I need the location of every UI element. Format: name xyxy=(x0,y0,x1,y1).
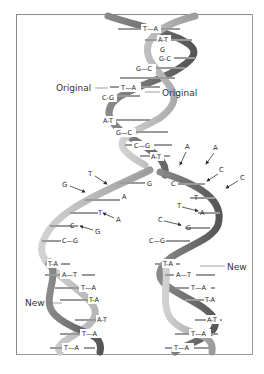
free-nuc-C3: C xyxy=(158,216,163,224)
bp-5: G—C xyxy=(136,65,153,73)
fork-right-base-2: T xyxy=(193,194,198,202)
bp-11: A-T xyxy=(151,153,161,161)
fork-left-base-2: A xyxy=(122,193,127,201)
arrow-icon xyxy=(70,186,85,192)
arrow-icon xyxy=(95,176,107,184)
left-bp-8: T—A xyxy=(63,344,79,352)
arrow-icon xyxy=(226,181,238,188)
left-bp-5: T-A xyxy=(88,296,100,304)
arrow-icon xyxy=(182,207,198,211)
fork-left-base-3: T xyxy=(97,209,102,217)
left-bp-3: A—T xyxy=(62,271,77,279)
bp-8: A-T xyxy=(103,117,113,125)
left-bp-6: A-T xyxy=(97,316,107,324)
right-bp-1: C—G xyxy=(149,237,165,245)
arrow-icon xyxy=(164,221,181,225)
bp-1: T—A xyxy=(142,25,158,33)
arrow-icon xyxy=(206,153,214,164)
dna-replication-diagram: T—A A-T G G-C G—C T—A C-G A-T G—C C—G A-… xyxy=(0,0,264,374)
bp-7: C-G xyxy=(102,94,114,102)
free-nuc-C1: C xyxy=(219,166,224,174)
fork-right-base-3: A xyxy=(200,209,205,217)
left-daughter-helix: G A T C C—G T-A A—T T—A T-A A-T T—A T—A xyxy=(42,170,153,352)
label-new-left: New xyxy=(25,298,45,308)
right-bp-5: T-A xyxy=(204,296,216,304)
right-bp-7: T—A xyxy=(190,330,206,338)
left-bp-7: T—A xyxy=(81,330,97,338)
free-nuc-A: A xyxy=(116,216,121,224)
left-bp-2: T-A xyxy=(47,260,59,268)
label-original-right: Original xyxy=(162,88,197,98)
bp-3: G xyxy=(160,46,165,54)
free-nuc-T: T xyxy=(176,202,182,210)
fork-left-base-1: G xyxy=(147,180,152,188)
bp-2: A-T xyxy=(158,36,168,44)
right-bp-2: T-A xyxy=(162,260,174,268)
bp-6: T—A xyxy=(120,84,136,92)
label-new-right: New xyxy=(227,262,247,272)
right-bp-4: T—A xyxy=(190,284,206,292)
right-daughter-helix: C T A G C—G T-A A—T T—A T-A A-T T—A T—A xyxy=(148,172,222,352)
right-bp-6: A-T xyxy=(207,316,217,324)
left-bp-4: T—A xyxy=(80,284,96,292)
right-bp-3: A—T xyxy=(176,271,191,279)
fork-right-base-4: G xyxy=(186,224,191,232)
bp-4: G-C xyxy=(159,55,171,63)
arrow-icon xyxy=(207,174,218,181)
arrow-icon xyxy=(103,213,114,218)
fork-right-base-1: C xyxy=(171,180,176,188)
label-original-left: Original xyxy=(56,83,91,93)
left-bp-1: C—G xyxy=(62,237,78,245)
free-nuc-T: T xyxy=(87,170,93,178)
free-nuc-C2: C xyxy=(240,174,245,182)
bp-9: G—C xyxy=(116,129,133,137)
fork-left-base-4: C xyxy=(70,222,75,230)
arrow-icon xyxy=(180,152,186,165)
bp-10: C—G xyxy=(134,142,150,150)
right-bp-8: T—A xyxy=(173,344,189,352)
free-nuc-G2: G xyxy=(95,228,100,236)
arrow-icon xyxy=(80,226,93,230)
free-nuc-A1: A xyxy=(185,143,190,151)
free-nuc-G: G xyxy=(62,181,67,189)
free-nuc-A2: A xyxy=(213,144,218,152)
